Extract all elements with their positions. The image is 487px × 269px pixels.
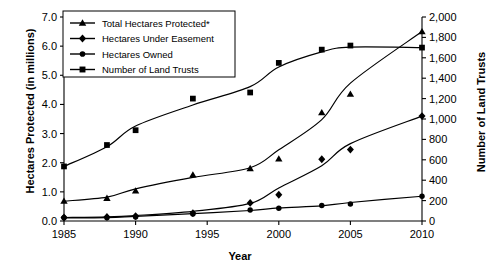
data-point-marker xyxy=(133,214,138,219)
data-point-marker xyxy=(419,193,424,198)
data-point-marker xyxy=(275,191,282,199)
data-point-marker xyxy=(418,28,425,34)
data-point-marker xyxy=(348,43,354,49)
x-axis-tick-label: 1995 xyxy=(195,228,219,240)
chart-legend: Total Hectares Protected*Hectares Under … xyxy=(63,11,235,77)
data-point-marker xyxy=(104,215,109,220)
legend-marker-circle-icon xyxy=(80,51,86,57)
data-point-marker xyxy=(276,205,281,210)
series-trend-line xyxy=(64,116,422,217)
data-point-marker xyxy=(419,45,425,51)
y-axis-left-tick-label: 2.0 xyxy=(42,157,57,169)
y-axis-right-tick-label: 400 xyxy=(429,174,447,186)
data-point-marker xyxy=(319,203,324,208)
y-axis-right-tick-label: 1,200 xyxy=(429,93,457,105)
data-point-marker xyxy=(104,142,110,148)
x-axis-tick-label: 1990 xyxy=(123,228,147,240)
y-axis-right-tick-label: 1,400 xyxy=(429,72,457,84)
y-axis-left-tick-label: 6.0 xyxy=(42,40,57,52)
legend-item-label: Number of Land Trusts xyxy=(102,64,199,75)
y-axis-left-tick-label: 0.0 xyxy=(42,215,57,227)
data-point-marker xyxy=(247,199,254,207)
data-point-marker xyxy=(275,155,282,161)
y-axis-right-tick-label: 1,800 xyxy=(429,31,457,43)
data-point-marker xyxy=(319,47,325,53)
data-point-marker xyxy=(247,90,253,96)
y-axis-left-ticks: 0.01.02.03.04.05.06.07.0 xyxy=(42,11,64,227)
legend-marker-square-icon xyxy=(80,67,86,73)
data-point-marker xyxy=(247,207,252,212)
data-point-marker xyxy=(190,96,196,102)
x-axis-tick-label: 2000 xyxy=(267,228,291,240)
y-axis-right-tick-label: 600 xyxy=(429,154,447,166)
y-axis-left-tick-label: 5.0 xyxy=(42,69,57,81)
data-point-marker xyxy=(347,146,354,154)
y-axis-left-tick-label: 7.0 xyxy=(42,11,57,23)
y-axis-right-tick-label: 0 xyxy=(429,215,435,227)
y-axis-left-tick-label: 4.0 xyxy=(42,98,57,110)
y-axis-right-tick-label: 1,000 xyxy=(429,113,457,125)
data-point-marker xyxy=(133,127,139,133)
legend-item-label: Total Hectares Protected* xyxy=(102,18,210,29)
y-axis-right-tick-label: 200 xyxy=(429,195,447,207)
data-point-marker xyxy=(190,211,195,216)
data-point-marker xyxy=(318,155,325,163)
data-point-marker xyxy=(318,109,325,115)
y-axis-left-tick-label: 1.0 xyxy=(42,186,57,198)
y-axis-right-tick-label: 1,600 xyxy=(429,52,457,64)
data-point-marker xyxy=(61,164,67,170)
x-axis-tick-label: 2010 xyxy=(410,228,434,240)
data-point-marker xyxy=(189,171,196,177)
y-axis-right-ticks: 02004006008001,0001,2001,4001,6001,8002,… xyxy=(422,11,457,227)
x-axis-tick-label: 2005 xyxy=(338,228,362,240)
legend-item-label: Hectares Under Easement xyxy=(102,33,214,44)
data-point-marker xyxy=(348,201,353,206)
x-axis-tick-label: 1985 xyxy=(52,228,76,240)
x-axis-ticks: 198519901995200020052010 xyxy=(52,221,434,240)
series-trend-line xyxy=(64,196,422,218)
data-point-marker xyxy=(61,215,66,220)
y-axis-right-tick-label: 2,000 xyxy=(429,11,457,23)
data-point-marker xyxy=(276,60,282,66)
legend-item-label: Hectares Owned xyxy=(102,49,173,60)
data-point-marker xyxy=(347,91,354,97)
y-axis-right-tick-label: 800 xyxy=(429,133,447,145)
y-axis-left-tick-label: 3.0 xyxy=(42,128,57,140)
